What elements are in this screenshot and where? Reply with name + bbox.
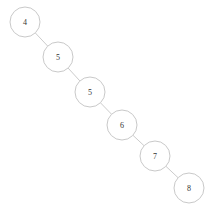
tree-node[interactable]: 4 (10, 7, 40, 37)
tree-diagram-svg: 455678 (0, 0, 213, 210)
tree-edge (133, 135, 144, 145)
tree-edge (100, 103, 111, 114)
tree-node[interactable]: 5 (43, 42, 73, 72)
tree-node-label: 7 (153, 152, 157, 161)
tree-node[interactable]: 7 (140, 141, 170, 171)
tree-node[interactable]: 8 (174, 173, 204, 203)
tree-edge (68, 68, 80, 81)
tree-node-label: 8 (187, 184, 191, 193)
tree-edge (166, 166, 178, 177)
tree-node[interactable]: 5 (75, 77, 105, 107)
tree-edge (35, 33, 47, 46)
tree-node-label: 4 (23, 18, 27, 27)
tree-node-label: 5 (88, 88, 92, 97)
tree-node[interactable]: 6 (107, 110, 137, 140)
tree-node-label: 6 (120, 121, 124, 130)
tree-diagram-canvas: 455678 (0, 0, 213, 210)
tree-node-label: 5 (56, 53, 60, 62)
